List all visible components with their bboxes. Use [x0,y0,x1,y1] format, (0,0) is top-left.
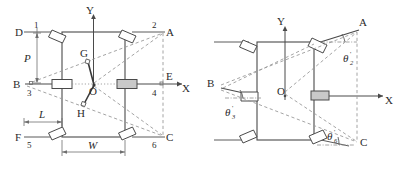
label-X-left: X [182,82,190,94]
theta-2-sub: 2 [350,59,354,66]
dim-label-L: L [38,108,45,120]
wheel-5 [49,127,67,140]
wheel-4-right [311,91,329,100]
wheel-6-right [309,130,327,144]
right-diagram: A B C O X Y θ 2 ' θ 3 ' θ 6 ' [199,0,398,171]
label-Y-left: Y [86,4,94,16]
theta-6-prime-mark: ' [334,128,335,136]
label-C-right: C [360,136,367,148]
dim-label-P: P [23,52,31,64]
theta-3-sub: 3 [231,113,236,120]
wheel-6 [119,127,137,140]
wheel-num-5: 5 [27,140,32,150]
label-E: E [166,70,173,82]
wheel-3-right [241,92,258,101]
wheel-5-right [240,130,258,143]
label-H: H [77,107,85,119]
angle-label-theta-2-prime: θ 2 ' [343,50,354,66]
constr-line-BA-right [221,32,357,85]
left-diagram: D A B E F C G H O X Y 1 2 3 4 5 6 P L W [0,0,199,171]
label-B-right: B [207,77,214,89]
joint-G [85,59,90,64]
theta-2-prime-mark: ' [350,50,351,58]
theta-6-sub: 6 [334,137,338,144]
joint-H [81,101,86,106]
label-D: D [15,26,23,38]
wheel-num-4: 4 [152,88,157,98]
wheel-3 [52,80,72,89]
label-B: B [13,78,20,90]
dim-W-arrow-right [120,150,125,154]
figure-root: D A B E F C G H O X Y 1 2 3 4 5 6 P L W [0,0,398,171]
label-X-right: X [385,94,393,106]
label-Y-right: Y [277,15,285,27]
label-O-right: O [277,85,285,97]
angle-label-theta-6-prime: θ 6 ' [327,128,338,144]
theta-3-prime-mark: ' [232,104,233,112]
wheel-4 [117,80,137,89]
dim-W-arrow-left [62,150,67,154]
dim-P-arrow-bottom [35,78,39,83]
label-O-left: O [89,85,97,97]
label-A: A [166,26,174,38]
dim-L-arrow-right [57,120,62,124]
theta-3-symbol: θ [225,106,231,118]
wheel-num-2: 2 [152,20,157,30]
theta-6-symbol: θ [327,130,333,142]
angle-label-theta-3-prime: θ 3 ' [225,104,236,120]
label-F: F [15,131,21,143]
wheel-1-right [240,40,258,53]
constr-line-BA [27,33,163,84]
label-C: C [166,131,173,143]
wheel-num-1: 1 [34,20,39,30]
wheel-num-3: 3 [27,88,32,98]
label-G: G [80,47,88,59]
dim-label-W: W [88,139,98,151]
dim-L-arrow-left [24,120,29,124]
x-axis-arrow-right [378,94,383,99]
wheel-num-6: 6 [152,140,157,150]
constr-line-B-wheel2 [223,44,314,88]
theta-2-symbol: θ [343,52,349,64]
label-A-right: A [359,16,367,28]
